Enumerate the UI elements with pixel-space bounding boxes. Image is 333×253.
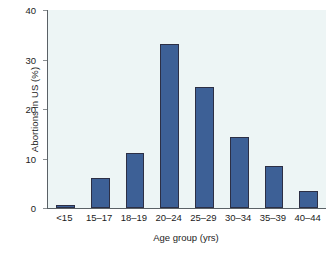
y-axis-tick-labels: 010203040 [0,0,44,253]
bar[interactable] [91,178,110,208]
bar-slot [152,10,187,208]
bar[interactable] [160,44,179,208]
bar-slot [257,10,292,208]
x-axis-tick-label: 20–24 [151,212,186,223]
bar-slot [222,10,257,208]
x-axis-tick-label: <15 [47,212,82,223]
bar[interactable] [56,205,75,208]
x-axis-tick-label: 18–19 [117,212,152,223]
bar[interactable] [126,153,145,208]
y-axis-tick-label: 0 [31,203,36,214]
x-axis-tick-label: 15–17 [82,212,117,223]
x-axis-tick-label: 35–39 [256,212,291,223]
x-axis-tick-label: 25–29 [186,212,221,223]
y-axis-tick-label: 20 [25,104,36,115]
bar[interactable] [299,191,318,208]
bar-slot [291,10,326,208]
bar[interactable] [195,87,214,208]
y-axis-tick-label: 40 [25,5,36,16]
bar[interactable] [265,166,284,208]
x-axis-title: Age group (yrs) [47,232,325,243]
y-axis-tick-label: 30 [25,54,36,65]
bar-group [48,10,326,208]
bar-slot [83,10,118,208]
bar-chart-figure: Abortions in US (%) 010203040 <1515–1718… [0,0,333,253]
y-axis-tick-label: 10 [25,153,36,164]
x-axis-tick-label: 30–34 [221,212,256,223]
x-axis-tick-label: 40–44 [290,212,325,223]
x-axis-tick-labels: <1515–1718–1920–2425–2930–3435–3940–44 [47,212,325,223]
bar-slot [48,10,83,208]
plot-area [47,10,326,209]
bar[interactable] [230,137,249,208]
bar-slot [187,10,222,208]
bar-slot [118,10,153,208]
